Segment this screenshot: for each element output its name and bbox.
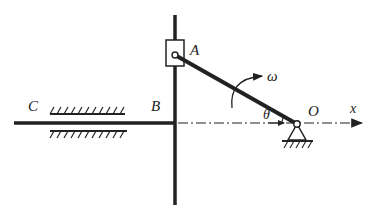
pin-a (172, 52, 178, 58)
label-o: O (308, 103, 319, 119)
crank-oa (175, 55, 297, 124)
pin-support-o (282, 121, 313, 148)
lower-guide (50, 131, 127, 138)
label-b: B (151, 98, 160, 114)
mechanism-diagram: A C B O x ω θ (0, 0, 374, 215)
label-theta: θ (263, 107, 270, 122)
label-omega: ω (267, 68, 278, 84)
label-c: C (28, 98, 39, 114)
upper-guide (50, 107, 125, 114)
label-a: A (189, 42, 200, 58)
label-x: x (349, 101, 357, 116)
